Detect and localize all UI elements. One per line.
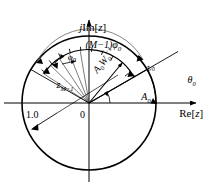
a0-label: A0 — [124, 91, 163, 105]
total-angle-label-sub: 0 — [118, 45, 122, 53]
a0-label-sub: 0 — [147, 97, 151, 104]
imaginary-axis-label-close: ] — [102, 21, 106, 33]
origin-label: 0 — [80, 109, 85, 120]
step-angle-label-sub: 0 — [73, 56, 77, 63]
unit-radius-arrow — [31, 124, 39, 131]
first-point-label: z0 — [129, 54, 168, 84]
real-axis-label: Re[z] — [160, 107, 209, 119]
start-angle-label: θ0 — [170, 74, 208, 88]
diagram-canvas: jIm[z] Re[z] 0 1.0 (M−1)φ0 φ0 zM−1 A0W0−… — [0, 0, 209, 193]
real-axis-label-close: ] — [199, 107, 203, 119]
unit-radius-label: 1.0 — [26, 109, 39, 120]
real-axis-label-re: Re[ — [179, 107, 195, 119]
imaginary-axis-label: jIm[z] — [60, 21, 120, 33]
start-angle-label-sub: 0 — [192, 80, 196, 87]
z-plane-diagram: jIm[z] Re[z] 0 1.0 (M−1)φ0 φ0 zM−1 A0W0−… — [0, 0, 209, 193]
last-point-label-sub: M−1 — [59, 85, 73, 92]
imaginary-axis-label-im: Im[ — [82, 21, 98, 33]
